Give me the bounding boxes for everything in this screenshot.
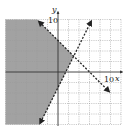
y-tick-10: 10 xyxy=(48,16,58,25)
y-axis-label: y xyxy=(51,5,57,14)
x-tick-10: 10 xyxy=(104,75,114,84)
x-axis-label: x xyxy=(115,74,120,83)
inequality-graph: y 10 10 x xyxy=(0,0,128,133)
